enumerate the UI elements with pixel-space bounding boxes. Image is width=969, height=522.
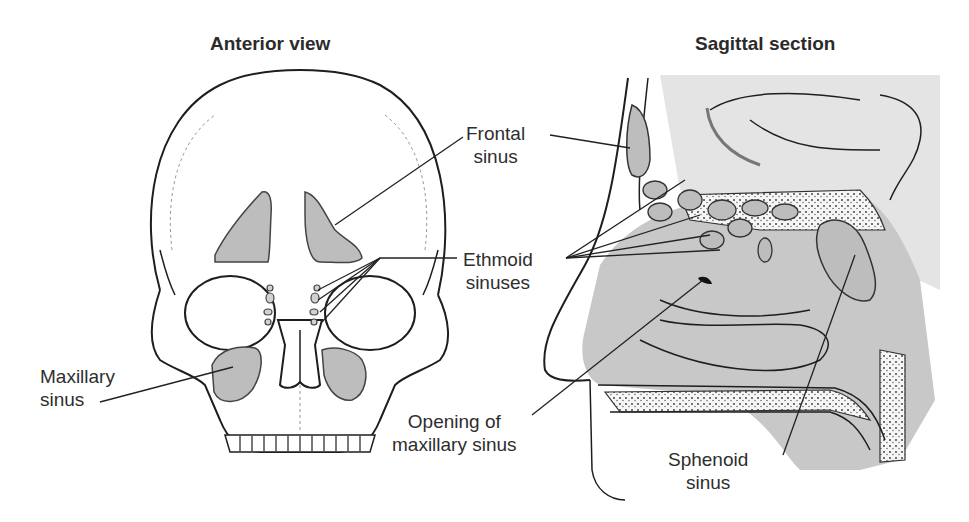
anterior-skull [151,70,448,452]
sagittal-section-title: Sagittal section [695,33,835,55]
ethmoid-sinuses-label-line1: Ethmoid [463,248,533,271]
opening-maxillary-sinus-label: Opening of maxillary sinus [392,410,517,456]
sphenoid-sinus-label: Sphenoid sinus [668,448,748,494]
anterior-view-title: Anterior view [210,33,330,55]
sphenoid-sinus-label-line1: Sphenoid [668,448,748,471]
frontal-sinus-sagittal [627,105,650,177]
opening-label-line2: maxillary sinus [392,433,517,456]
sagittal-section [544,75,940,500]
frontal-sinus-label-line2: sinus [466,145,525,168]
opening-label-line1: Opening of [392,410,517,433]
ethmoid-sinuses-label-line2: sinuses [463,271,533,294]
ethmoid-sinuses-label: Ethmoid sinuses [463,248,533,294]
frontal-sinus-label: Frontal sinus [466,122,525,168]
sphenoid-sinus-label-line2: sinus [668,471,748,494]
maxillary-sinus-label: Maxillary sinus [40,365,115,411]
maxillary-sinus-label-line2: sinus [40,388,115,411]
maxillary-sinus-label-line1: Maxillary [40,365,115,388]
frontal-sinus-label-line1: Frontal [466,122,525,145]
sinus-anatomy-figure: Anterior view Sagittal section Frontal s… [0,0,969,522]
